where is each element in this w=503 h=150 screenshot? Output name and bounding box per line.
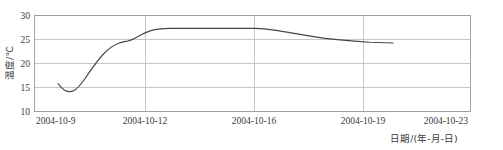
x-tick-2004-10-16: 2004-10-16 bbox=[232, 116, 277, 126]
y-axis-title: 温度/℃ bbox=[4, 46, 15, 80]
y-tick-25: 25 bbox=[21, 35, 31, 45]
x-tick-2004-10-9: 2004-10-9 bbox=[36, 116, 76, 126]
x-axis-title: 日期/(年-月-日) bbox=[390, 133, 457, 144]
y-tick-10: 10 bbox=[21, 107, 31, 117]
y-tick-20: 20 bbox=[21, 59, 31, 69]
x-axis-tick-labels: 2004-10-9 2004-10-12 2004-10-16 2004-10-… bbox=[36, 116, 468, 126]
y-tick-15: 15 bbox=[21, 83, 31, 93]
temperature-line-chart: 30 25 20 15 10 2004-10-9 2004-10-12 2004… bbox=[0, 0, 503, 150]
y-tick-30: 30 bbox=[21, 11, 31, 21]
x-tick-2004-10-23: 2004-10-23 bbox=[424, 116, 469, 126]
x-tick-2004-10-19: 2004-10-19 bbox=[341, 116, 386, 126]
chart-figure: 30 25 20 15 10 2004-10-9 2004-10-12 2004… bbox=[0, 0, 503, 150]
y-axis-tick-labels: 30 25 20 15 10 bbox=[21, 11, 31, 117]
x-tick-2004-10-12: 2004-10-12 bbox=[123, 116, 168, 126]
